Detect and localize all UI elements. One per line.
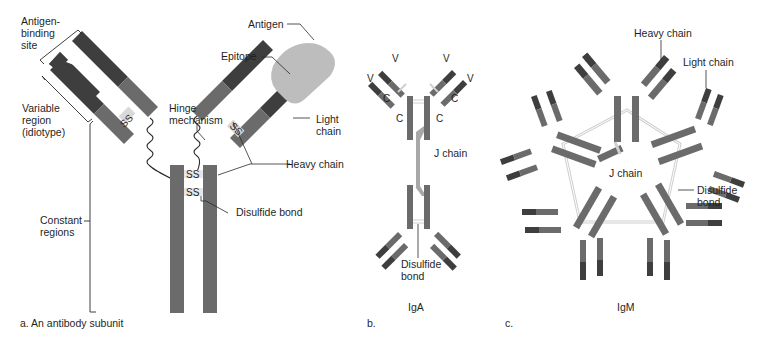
heavy-chain-stem-left (170, 165, 184, 313)
antigen-leader (287, 24, 314, 40)
label-disulfide-2: bond (401, 270, 425, 282)
right-fab-arm: SS (192, 40, 335, 148)
label-variable-region: Variable (22, 102, 60, 114)
label-constant-regions: Constant (40, 214, 82, 226)
label-v: V (392, 53, 399, 64)
label-j-chain-igm: J chain (609, 167, 642, 179)
heavy-chain-leader (218, 164, 290, 175)
panel-c-igm: Heavy chain Light chain J chain Disulfid… (500, 27, 745, 329)
panel-a-antibody-subunit: SS SS SS SS (20, 15, 344, 329)
label-v: V (467, 73, 474, 84)
label-hinge: Hinge (169, 102, 197, 114)
label-antigen-binding-site-3: site (21, 39, 38, 51)
label-disulfide-igm-2: bond (697, 196, 721, 208)
label-heavy-chain: Heavy chain (286, 158, 344, 170)
label-epitope: Epitope (221, 50, 257, 62)
label-antigen-binding-site-2: binding (21, 27, 55, 39)
constant-regions-bracket (90, 124, 96, 312)
label-v: V (443, 53, 450, 64)
label-v: V (367, 73, 374, 84)
title-igm: IgM (617, 301, 635, 313)
antibody-structure-figure: SS SS SS SS (0, 0, 767, 342)
panel-b-iga: V V V V C C C C J chain Disulfide bond I… (367, 53, 474, 329)
caption-a: a. An antibody subunit (20, 317, 123, 329)
title-iga: IgA (408, 301, 424, 313)
antigen-shape (271, 43, 335, 104)
label-antigen: Antigen (248, 18, 284, 30)
label-c: C (436, 113, 443, 124)
ss-label: SS (186, 169, 200, 180)
igm-disulfide-pentagon (563, 110, 680, 222)
heavy-chain-stem-right (203, 165, 217, 313)
label-disulfide: Disulfide (401, 258, 441, 270)
label-constant-regions-2: regions (40, 226, 74, 238)
label-hinge-2: mechanism (169, 114, 223, 126)
left-fab-arm: SS (49, 31, 158, 144)
label-c: C (396, 113, 403, 124)
hinge-left (147, 118, 174, 180)
label-variable-region-3: (idiotype) (22, 126, 65, 138)
label-c: C (451, 93, 458, 104)
hinge-leader (197, 124, 205, 140)
label-variable-region-2: region (22, 114, 51, 126)
figure-svg: SS SS SS SS (0, 0, 767, 342)
label-disulfide-igm: Disulfide (697, 184, 737, 196)
label-disulfide-bond: Disulfide bond (236, 206, 303, 218)
label-antigen-binding-site: Antigen- (21, 15, 61, 27)
label-heavy-chain-igm: Heavy chain (634, 27, 692, 39)
label-j-chain: J chain (434, 147, 467, 159)
caption-b: b. (367, 317, 376, 329)
label-light-chain: Light (316, 113, 339, 125)
label-c: C (383, 93, 390, 104)
label-light-chain-2: chain (316, 125, 341, 137)
caption-c: c. (505, 317, 513, 329)
ss-label: SS (186, 187, 200, 198)
label-light-chain-igm: Light chain (683, 56, 734, 68)
